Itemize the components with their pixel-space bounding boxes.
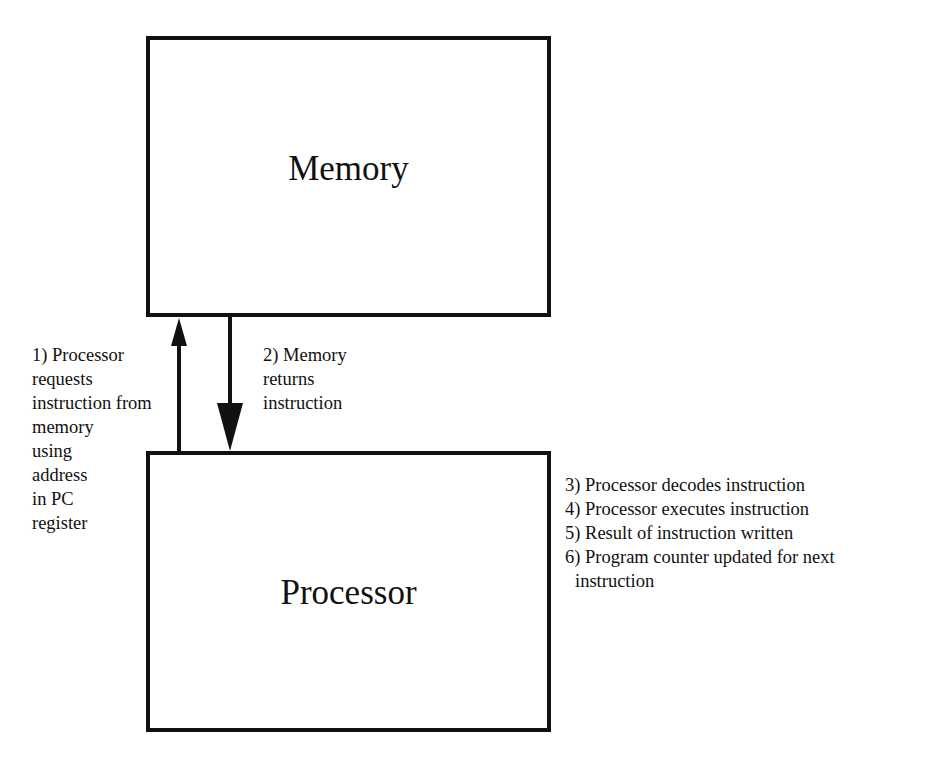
request-label-line: memory: [32, 415, 152, 439]
request-label-line: address: [32, 463, 152, 487]
request-label-line: register: [32, 511, 152, 535]
request-arrow-up-icon: [171, 318, 187, 453]
processor-steps-list: 3) Processor decodes instruction 4) Proc…: [565, 473, 835, 593]
step-item: 5) Result of instruction written: [565, 521, 835, 545]
step-item: 4) Processor executes instruction: [565, 497, 835, 521]
memory-box: Memory: [146, 36, 551, 317]
step-item: 6) Program counter updated for next: [565, 545, 835, 569]
request-label-line: using: [32, 439, 152, 463]
request-label: 1) Processor requests instruction from m…: [32, 343, 152, 535]
processor-box: Processor: [146, 451, 551, 732]
request-label-line: instruction from: [32, 391, 152, 415]
request-label-line: in PC: [32, 487, 152, 511]
return-arrow-down-icon: [217, 315, 243, 451]
processor-title: Processor: [150, 573, 547, 613]
return-label: 2) Memory returns instruction: [263, 343, 347, 415]
request-label-line: 1) Processor: [32, 343, 152, 367]
return-label-line: returns: [263, 367, 347, 391]
request-label-line: requests: [32, 367, 152, 391]
return-label-line: instruction: [263, 391, 347, 415]
step-item-continuation: instruction: [565, 569, 835, 593]
step-item: 3) Processor decodes instruction: [565, 473, 835, 497]
return-label-line: 2) Memory: [263, 343, 347, 367]
memory-title: Memory: [150, 149, 547, 189]
